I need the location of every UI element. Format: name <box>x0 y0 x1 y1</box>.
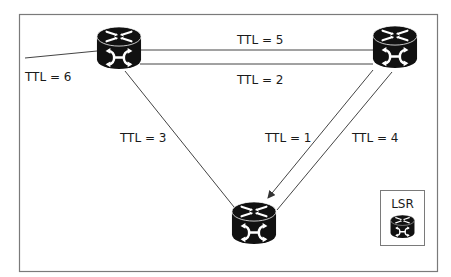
ttl-label-3: TTL = 3 <box>119 131 166 145</box>
router-icon <box>232 202 276 244</box>
ttl-label-6: TTL = 6 <box>24 70 71 84</box>
legend-title: LSR <box>391 197 414 211</box>
ttl-label-5: TTL = 5 <box>236 33 283 47</box>
router-icon <box>97 27 141 69</box>
network-diagram: TTL = 6 TTL = 5 TTL = 2 TTL = 3 TTL = 1 … <box>0 0 451 277</box>
router-icon <box>391 215 415 238</box>
ttl-label-2: TTL = 2 <box>236 73 283 87</box>
ttl-label-4: TTL = 4 <box>351 131 398 145</box>
legend-box: LSR <box>381 191 425 246</box>
router-icon <box>373 26 417 68</box>
ttl-label-1: TTL = 1 <box>264 131 311 145</box>
